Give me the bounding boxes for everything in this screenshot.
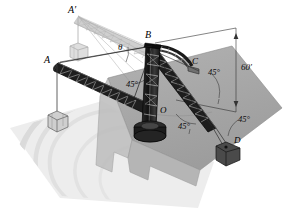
crane-figure: A′ B C A O D θ 60′ 45° 45° 45° 45° xyxy=(0,0,283,215)
label-point-b: B xyxy=(145,30,151,40)
label-angle-upper-right: 45° xyxy=(208,68,220,77)
label-angle-lower-right: 45° xyxy=(238,115,250,124)
label-point-c: C xyxy=(192,57,198,66)
label-point-d: D xyxy=(234,136,241,145)
figure-canvas xyxy=(0,0,283,215)
crate-d xyxy=(216,142,240,166)
label-height-60ft: 60′ xyxy=(241,63,252,72)
label-angle-theta: θ xyxy=(118,43,122,52)
base-pedestal xyxy=(134,121,166,142)
label-angle-mast-left: 45° xyxy=(126,80,138,89)
label-point-a: A xyxy=(44,55,50,65)
label-point-o: O xyxy=(160,106,167,115)
label-point-a-prime: A′ xyxy=(68,5,76,15)
label-angle-lower-center: 45° xyxy=(178,122,190,131)
